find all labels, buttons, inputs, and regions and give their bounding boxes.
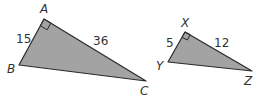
vertex-label-a: A [39, 2, 48, 16]
triangle-abc-shape [19, 19, 146, 81]
triangle-abc: A B C 15 36 [7, 2, 149, 98]
vertex-label-c: C [140, 84, 149, 98]
vertex-label-x: X [180, 16, 190, 30]
side-label-ab: 15 [16, 32, 31, 46]
triangle-xyz: X Y Z 5 12 [156, 16, 253, 88]
vertex-label-z: Z [243, 74, 253, 88]
side-label-xz: 12 [214, 36, 229, 50]
side-label-xy: 5 [166, 36, 174, 50]
vertex-label-b: B [7, 62, 15, 76]
similar-triangles-diagram: A B C 15 36 X Y Z 5 12 [0, 0, 264, 98]
vertex-label-y: Y [156, 59, 165, 73]
triangle-xyz-shape [168, 32, 252, 71]
side-label-ac: 36 [93, 34, 108, 48]
